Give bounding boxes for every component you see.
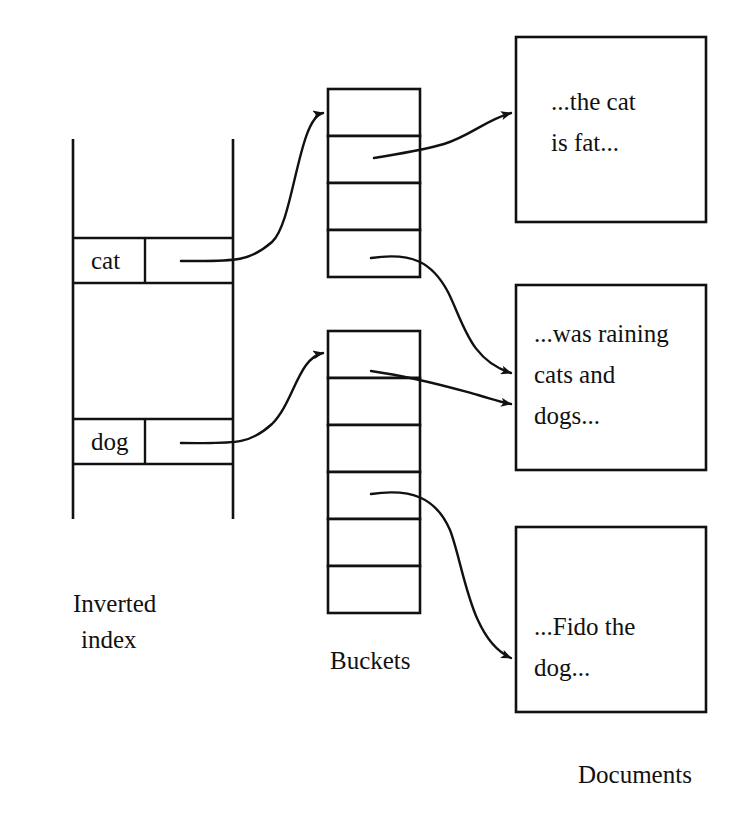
bucket-dog-cell-2[interactable] [328, 378, 420, 425]
arrow-dog-to-bucket [181, 353, 323, 443]
document-box-3[interactable]: ...Fido the dog... [516, 527, 706, 712]
index-term-cat: cat [91, 247, 120, 274]
diagram-root: cat dog ...the cat is fat... ...w [0, 0, 736, 821]
bucket-dog-cell-4[interactable] [328, 472, 420, 519]
inverted-index-structure: cat dog [73, 139, 233, 519]
index-term-dog: dog [91, 428, 129, 455]
bucket-cat-cell-2[interactable] [328, 136, 420, 183]
caption-buckets: Buckets [330, 647, 411, 674]
document-1-line-2: is fat... [551, 129, 619, 156]
diagram-canvas: cat dog ...the cat is fat... ...w [0, 0, 736, 821]
bucket-dog-cell-5[interactable] [328, 519, 420, 566]
document-box-2[interactable]: ...was raining cats and dogs... [516, 285, 706, 470]
caption-documents: Documents [578, 761, 692, 788]
document-2-line-1: ...was raining [534, 320, 669, 347]
bucket-list-dog [328, 331, 420, 613]
document-2-line-3: dogs... [534, 402, 600, 429]
document-2-line-2: cats and [534, 361, 616, 388]
bucket-cat-cell-3[interactable] [328, 183, 420, 230]
document-3-line-1: ...Fido the [534, 613, 635, 640]
document-box-1[interactable]: ...the cat is fat... [516, 37, 706, 222]
caption-inverted-index-line-2: index [81, 626, 137, 653]
caption-inverted-index-line-1: Inverted [73, 590, 157, 617]
bucket-dog-cell-6[interactable] [328, 566, 420, 613]
document-1-line-1: ...the cat [551, 88, 636, 115]
bucket-list-cat [328, 89, 420, 277]
document-3-line-2: dog... [534, 654, 590, 681]
bucket-cat-cell-1[interactable] [328, 89, 420, 136]
bucket-dog-cell-3[interactable] [328, 425, 420, 472]
bucket-cat-cell-4[interactable] [328, 230, 420, 277]
